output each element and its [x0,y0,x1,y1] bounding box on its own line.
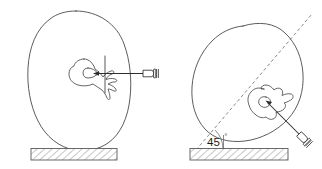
hatched-ground-surface-right [190,149,288,161]
hatched-ground-surface-left [31,149,117,161]
syringe-hub-horizontal [143,69,158,78]
needle-insertion-diagram: 45 ° [0,0,322,169]
angle-label-degree-symbol: ° [225,133,228,140]
figure-container: 45 ° [0,0,322,169]
angle-label-value: 45 [207,136,220,148]
